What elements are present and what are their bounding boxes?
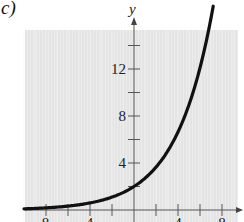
svg-text:-8: -8 bbox=[37, 215, 50, 222]
svg-text:-4: -4 bbox=[81, 215, 94, 222]
svg-text:8: 8 bbox=[218, 215, 226, 222]
svg-text:4: 4 bbox=[174, 215, 182, 222]
chart-plot: 4812-8-448 y bbox=[0, 0, 244, 222]
svg-text:12: 12 bbox=[111, 61, 126, 77]
svg-text:4: 4 bbox=[119, 155, 127, 171]
y-axis-label: y bbox=[127, 1, 136, 17]
svg-text:8: 8 bbox=[119, 108, 127, 124]
